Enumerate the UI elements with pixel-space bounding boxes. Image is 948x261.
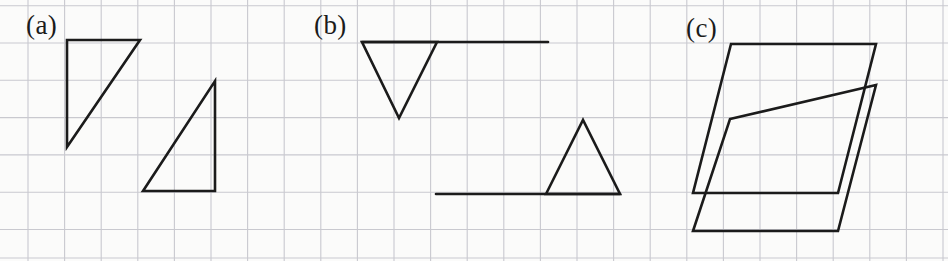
panel-label-b: (b) (314, 12, 347, 39)
panel-label-c: (c) (686, 15, 717, 42)
grid-paper-canvas (0, 0, 948, 261)
figure-root: (a) (b) (c) (0, 0, 948, 261)
paper-background (0, 0, 948, 261)
panel-label-a: (a) (26, 12, 57, 39)
